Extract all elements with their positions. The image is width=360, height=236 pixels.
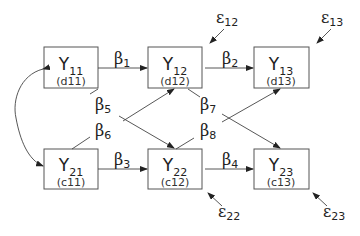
node-y13: Y13 (d13) [254, 47, 309, 88]
label-b2: β2 [222, 49, 238, 70]
error-e13: ε13 [317, 8, 343, 43]
svg-text:(d11): (d11) [56, 75, 86, 88]
node-y23: Y23 (c13) [254, 149, 309, 189]
svg-text:(c13): (c13) [267, 176, 296, 189]
label-b5: β5 [95, 95, 111, 116]
edge-b6 [123, 89, 174, 121]
correlation-y11-y21 [15, 69, 43, 166]
label-b6: β6 [95, 121, 111, 142]
label-b1: β1 [114, 49, 130, 70]
leader-b5 [90, 89, 98, 94]
leader-b8 [176, 138, 194, 149]
path-diagram: Y11 (d11) Y12 (d12) Y13 (d13) Y21 (c11) … [0, 0, 360, 236]
node-y21: Y21 (c11) [44, 149, 98, 189]
label-b8: β8 [200, 121, 216, 142]
node-y11: Y11 (d11) [44, 47, 98, 88]
leader-b6 [72, 137, 90, 149]
edge-b8 [222, 89, 280, 122]
label-b7: β7 [200, 95, 216, 116]
label-b4: β4 [222, 150, 238, 171]
node-y12: Y12 (d12) [148, 47, 202, 88]
error-e12: ε12 [210, 8, 238, 43]
svg-text:(c11): (c11) [57, 176, 86, 189]
svg-text:(d12): (d12) [160, 75, 190, 88]
svg-text:(c12): (c12) [161, 176, 190, 189]
svg-text:(d13): (d13) [266, 75, 296, 88]
error-e22: ε22 [208, 193, 240, 223]
svg-text:ε13: ε13 [321, 8, 343, 29]
edge-b5 [119, 116, 174, 148]
node-y22: Y22 (c12) [148, 149, 202, 189]
error-e23: ε23 [313, 193, 345, 223]
svg-text:ε12: ε12 [216, 8, 238, 29]
label-b3: β3 [114, 150, 130, 171]
edge-b7 [222, 114, 280, 148]
leader-b7 [188, 89, 200, 97]
